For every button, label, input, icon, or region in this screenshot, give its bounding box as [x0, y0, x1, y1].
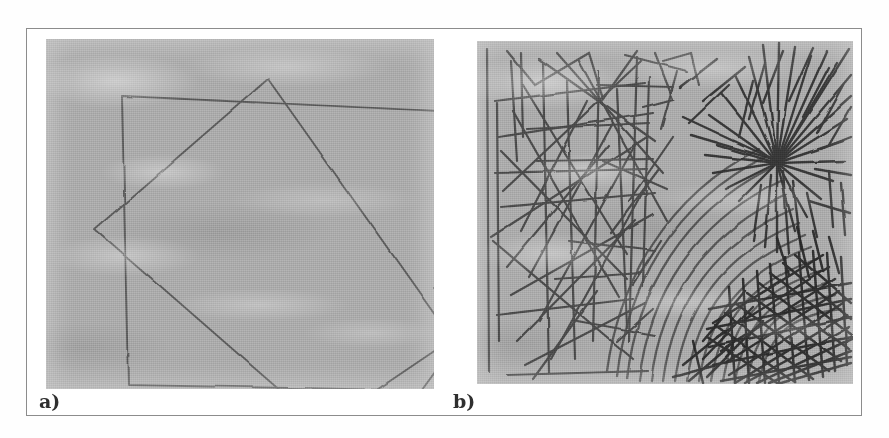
shape-rotated-square — [95, 79, 434, 389]
panel-a-label: a) — [39, 392, 60, 411]
region-spiky-starburst — [681, 43, 851, 253]
panel-b-photo — [477, 41, 853, 384]
panel-a-photo — [46, 39, 434, 389]
region-zigzag-line-network — [487, 49, 699, 379]
figure-root: a) — [0, 0, 889, 438]
figure-panel-b: b) — [445, 29, 863, 417]
panel-b-label: b) — [453, 392, 475, 411]
shape-axis-aligned-square — [122, 96, 434, 389]
shape-stray-line-right — [403, 339, 434, 389]
figure-panel-a: a) — [27, 29, 445, 417]
panel-a-sketch — [46, 39, 434, 389]
panel-b-sketch — [477, 41, 853, 384]
figure-frame: a) — [26, 28, 862, 416]
